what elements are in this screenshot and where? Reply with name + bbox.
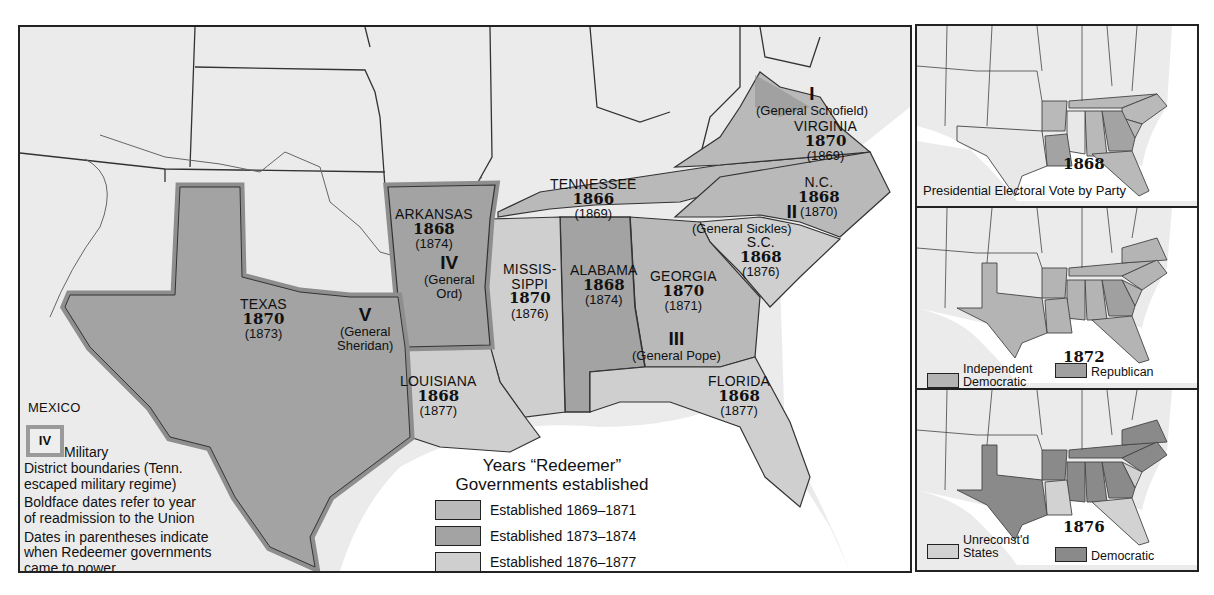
- readmission-year: 1870: [503, 291, 557, 307]
- redeemer-year: (1876): [503, 307, 557, 321]
- state-label-louisiana: LOUISIANA 1868 (1877): [400, 374, 477, 418]
- state-label-texas: TEXAS 1870 (1873): [240, 297, 287, 341]
- notes-block: District boundaries (Tenn. escaped milit…: [24, 461, 212, 573]
- redeemer-year: (1869): [550, 207, 637, 221]
- military-label: Military: [64, 445, 108, 461]
- district-general: (General Sheridan): [337, 325, 393, 352]
- inset-1876-legend-unreconstructed: Unreconst'd States: [927, 534, 1029, 559]
- legend-item-1869-1871: Established 1869–1871: [435, 500, 636, 520]
- inset-1872-legend-independent-democratic: Independent Democratic: [927, 363, 1033, 388]
- redeemer-year: (1871): [650, 299, 717, 313]
- state-label-florida: FLORIDA 1868 (1877): [708, 374, 770, 418]
- legend-swatch: [435, 500, 481, 520]
- readmission-year: 1868: [570, 278, 638, 294]
- readmission-year: 1868: [400, 389, 477, 405]
- legend-swatch: [1055, 547, 1087, 562]
- inset-1868-shapes: [917, 26, 1197, 206]
- state-label-georgia: GEORGIA 1870 (1871): [650, 269, 717, 313]
- district-iii-label: III (General Pope): [632, 329, 721, 363]
- state-label-mississippi: MISSIS- SIPPI 1870 (1876): [503, 262, 557, 321]
- note-line: District boundaries (Tenn.: [24, 461, 212, 477]
- inset-caption: Presidential Electoral Vote by Party: [923, 183, 1126, 198]
- district-numeral: III: [632, 329, 721, 349]
- inset-map-1876: 1876 Unreconst'd States Democratic: [915, 388, 1199, 572]
- legend-swatch: [927, 544, 959, 559]
- state-name: MISSIS- SIPPI: [503, 262, 557, 291]
- legend-label: Unreconst'd States: [963, 534, 1029, 559]
- district-general: (General Schofield): [756, 104, 868, 118]
- district-ii-label: II (General Sickles): [692, 202, 792, 236]
- redeemer-year: (1877): [400, 404, 477, 418]
- district-numeral: II: [742, 202, 842, 222]
- district-general: (General Pope): [632, 349, 721, 363]
- district-numeral: I: [756, 84, 868, 104]
- inset-year-1876: 1876: [1063, 518, 1105, 536]
- legend-swatch: [927, 373, 959, 388]
- redeemer-year: (1874): [395, 237, 473, 251]
- legend-title: Years “Redeemer” Governments established: [432, 457, 672, 494]
- legend-swatch: [435, 552, 481, 572]
- legend-label: Democratic: [1091, 550, 1154, 563]
- district-general: (General Sickles): [692, 222, 792, 236]
- legend-item-1876-1877: Established 1876–1877: [435, 552, 636, 572]
- readmission-year: 1868: [740, 250, 782, 266]
- readmission-year: 1870: [794, 134, 857, 150]
- note-line: came to power: [24, 561, 212, 573]
- readmission-year: 1870: [240, 312, 287, 328]
- legend-label: Established 1873–1874: [490, 528, 636, 544]
- note-line: of readmission to the Union: [24, 511, 212, 527]
- inset-1872-shapes: [917, 208, 1197, 388]
- mexico-label: MEXICO: [28, 401, 80, 415]
- state-label-tennessee: TENNESSEE 1866 (1869): [550, 177, 637, 221]
- state-label-south-carolina: S.C. 1868 (1876): [740, 235, 782, 279]
- redeemer-year: (1873): [240, 327, 287, 341]
- legend-label: Established 1869–1871: [490, 502, 636, 518]
- inset-map-1868: 1868 Presidential Electoral Vote by Part…: [915, 24, 1199, 208]
- readmission-year: 1868: [708, 389, 770, 405]
- legend-swatch: [435, 526, 481, 546]
- legend-item-1873-1874: Established 1873–1874: [435, 526, 636, 546]
- note-line: Boldface dates refer to year: [24, 495, 212, 511]
- redeemer-year: (1874): [570, 293, 638, 307]
- legend-title-line: Governments established: [432, 476, 672, 495]
- readmission-year: 1866: [550, 192, 637, 208]
- district-iv-label: IV (General Ord): [424, 253, 475, 300]
- state-label-virginia: VIRGINIA 1870 (1869): [794, 119, 857, 163]
- inset-year-1868: 1868: [1063, 155, 1105, 173]
- district-numeral: IV: [424, 253, 475, 273]
- legend-swatch: [1055, 363, 1087, 378]
- main-map: I (General Schofield) VIRGINIA 1870 (186…: [18, 25, 912, 573]
- military-district-badge: IV: [26, 425, 64, 457]
- note-line: Dates in parentheses indicate: [24, 530, 212, 546]
- readmission-year: 1868: [395, 222, 473, 238]
- redeemer-year: (1877): [708, 404, 770, 418]
- readmission-year: 1870: [650, 284, 717, 300]
- note-line: when Redeemer governments: [24, 545, 212, 561]
- legend-title-line: Years “Redeemer”: [432, 457, 672, 476]
- district-general: (General Ord): [424, 273, 475, 300]
- district-v-label: V (General Sheridan): [337, 305, 393, 352]
- inset-1876-legend-democratic: Democratic: [1055, 547, 1154, 562]
- state-label-arkansas: ARKANSAS 1868 (1874): [395, 207, 473, 251]
- state-label-alabama: ALABAMA 1868 (1874): [570, 263, 638, 307]
- legend-label: Republican: [1091, 366, 1154, 379]
- redeemer-year: (1876): [740, 265, 782, 279]
- redeemer-year: (1869): [794, 149, 857, 163]
- district-numeral: V: [337, 305, 393, 325]
- note-line: escaped military regime): [24, 477, 212, 493]
- inset-1872-legend-republican: Republican: [1055, 363, 1154, 378]
- inset-map-1872: 1872 Independent Democratic Republican: [915, 206, 1199, 390]
- district-i-label: I (General Schofield): [756, 84, 868, 118]
- legend-label: Independent Democratic: [963, 363, 1033, 388]
- legend-label: Established 1876–1877: [490, 554, 636, 570]
